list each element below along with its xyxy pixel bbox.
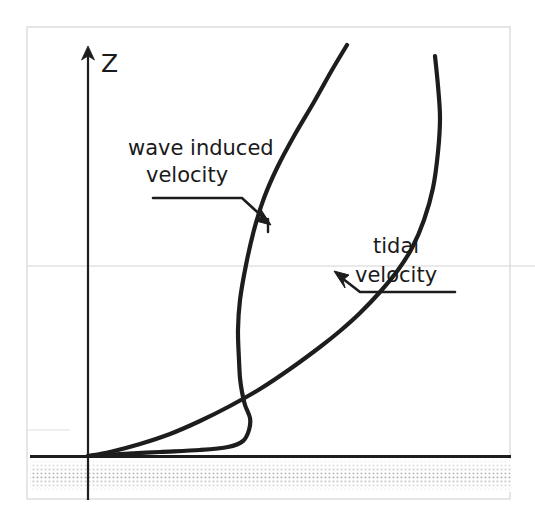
z-axis-label: Z — [101, 49, 118, 78]
seabed-stipple-fade — [30, 459, 511, 492]
figure-canvas: Z wave induced velocity tidal velocity — [0, 0, 535, 523]
tidal-velocity-arrowhead — [334, 271, 349, 288]
wave-induced-velocity-leader-line — [153, 198, 267, 221]
tidal-velocity-label-line1: tidal — [373, 234, 419, 258]
tidal-velocity-label-line2: velocity — [355, 263, 437, 287]
z-axis: Z — [82, 46, 119, 500]
annotation-wave-induced-velocity: wave induced velocity — [128, 136, 274, 232]
wave-induced-velocity-label-line1: wave induced — [128, 136, 274, 160]
wave-induced-velocity-label-line2: velocity — [146, 163, 228, 187]
seabed — [30, 457, 511, 493]
velocity-profile-figure: Z wave induced velocity tidal velocity — [0, 0, 535, 523]
annotation-tidal-velocity: tidal velocity — [334, 234, 455, 292]
wave-induced-velocity-curve — [88, 45, 347, 456]
